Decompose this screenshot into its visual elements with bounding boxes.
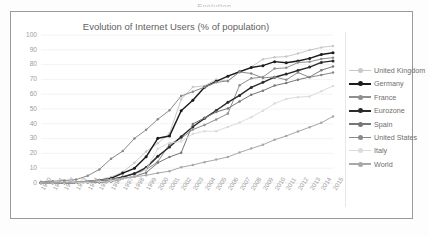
legend-item-eurozone[interactable]: Eurozone	[349, 104, 429, 117]
legend-item-label: United States	[374, 134, 417, 141]
x-axis-tick: 2012	[297, 176, 310, 191]
x-axis-tick: 2013	[309, 176, 322, 191]
x-axis-tick: 2001	[168, 176, 181, 191]
legend-item-united-states[interactable]: United States	[349, 131, 429, 144]
legend-item-label: France	[374, 94, 396, 101]
legend-divider	[345, 32, 346, 207]
x-axis-tick: 2002	[180, 176, 193, 191]
legend-item-label: Germany	[374, 80, 404, 87]
legend-swatch-icon	[349, 159, 371, 169]
legend-swatch-icon	[349, 133, 371, 143]
legend-item-italy[interactable]: Italy	[349, 144, 429, 157]
x-axis-tick: 2015	[332, 176, 345, 191]
x-axis-tick: 1994	[87, 176, 100, 191]
x-axis-tick: 1999	[145, 176, 158, 191]
x-axis-tick: 1995	[98, 176, 111, 191]
clipped-header-text: Evolution	[0, 0, 429, 7]
x-axis-tick: 2005	[215, 176, 228, 191]
x-axis-tick: 1998	[133, 176, 146, 191]
legend-item-label: United Kingdom	[374, 67, 425, 74]
x-axis-tick: 2011	[285, 177, 297, 192]
x-axis-tick: 1997	[122, 176, 135, 191]
x-axis-tick: 1996	[110, 176, 123, 191]
x-axis-tick: 1993	[75, 176, 88, 191]
x-axis-tick: 2007	[239, 176, 252, 191]
legend-item-label: Italy	[374, 147, 387, 154]
x-axis-tick: 2006	[227, 176, 240, 191]
x-axis-tick: 2000	[157, 176, 170, 191]
legend-swatch-icon	[349, 92, 371, 102]
x-axis-tick: 2009	[262, 176, 275, 191]
clipped-header-label: Evolution	[197, 3, 231, 7]
legend-item-united-kingdom[interactable]: United Kingdom	[349, 64, 429, 77]
x-axis-tick: 2004	[204, 176, 217, 191]
legend-item-spain[interactable]: Spain	[349, 118, 429, 131]
x-axis-tick: 2003	[192, 176, 205, 191]
x-axis-tick: 1991	[52, 176, 65, 191]
chart-frame: Evolution of Internet Users (% of popula…	[10, 11, 413, 219]
x-axis-tick: 2014	[320, 176, 333, 191]
legend-swatch-icon	[349, 79, 371, 89]
chart-legend: United KingdomGermanyFranceEurozoneSpain…	[349, 64, 429, 171]
legend-swatch-icon	[349, 106, 371, 116]
x-axis-tick: 1992	[63, 176, 76, 191]
legend-item-world[interactable]: World	[349, 158, 429, 171]
plot-area: 1009080706050403020100 19901991199219931…	[11, 12, 343, 212]
x-axis-labels: 1990199119921993199419951996199719981999…	[11, 12, 343, 212]
legend-item-label: Eurozone	[374, 107, 405, 114]
legend-swatch-icon	[349, 66, 371, 76]
x-axis-tick: 1990	[40, 176, 53, 191]
x-axis-tick: 2010	[274, 176, 287, 191]
legend-swatch-icon	[349, 146, 371, 156]
legend-item-germany[interactable]: Germany	[349, 77, 429, 90]
legend-swatch-icon	[349, 119, 371, 129]
screenshot-root: Evolution Evolution of Internet Users (%…	[0, 0, 429, 237]
legend-item-france[interactable]: France	[349, 91, 429, 104]
x-axis-tick: 2008	[250, 176, 263, 191]
legend-item-label: World	[374, 161, 393, 168]
legend-item-label: Spain	[374, 121, 392, 128]
